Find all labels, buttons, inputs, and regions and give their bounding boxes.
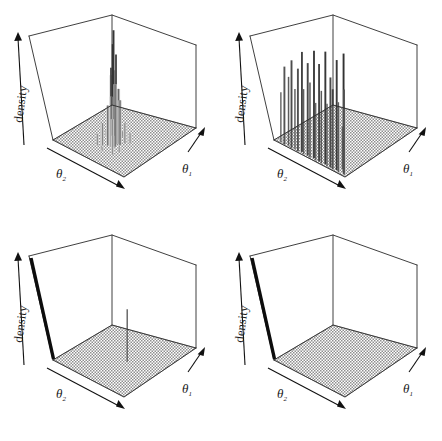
panel-bottom-right: density θ2 θ1 [221,220,442,441]
theta1-axis-label: θ1 [403,381,413,398]
panel-top-left: density θ2 θ1 [0,0,221,221]
density-axis-label: density [11,304,30,344]
density-axis-label: density [232,84,251,124]
theta2-axis-label: θ2 [56,166,66,183]
density-axis-label: density [11,84,30,124]
theta1-axis-label: θ1 [403,161,413,178]
panel-top-right: density θ2 θ1 [221,0,442,221]
theta2-axis-label: θ2 [277,386,287,403]
theta2-axis-label: θ2 [277,166,287,183]
panel-top-right-canvas: density θ2 θ1 [221,0,442,221]
panel-bottom-left: density θ2 θ1 [0,220,221,441]
theta1-axis-label: θ1 [182,161,192,178]
panel-bottom-left-canvas: density θ2 θ1 [0,220,221,441]
theta1-axis-label: θ1 [182,381,192,398]
panel-top-left-canvas: density θ2 θ1 [0,0,221,221]
density-axis-label: density [232,304,251,344]
panel-bottom-right-canvas: density θ2 θ1 [221,220,442,441]
theta2-axis-label: θ2 [56,386,66,403]
figure-root: density θ2 θ1 [0,0,442,441]
